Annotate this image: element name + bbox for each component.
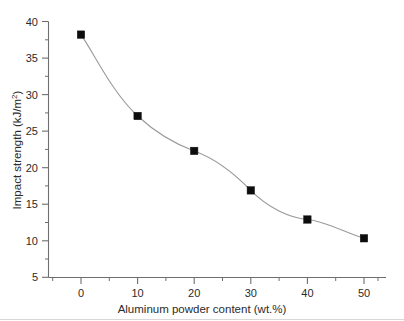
x-tick-label-30: 30 <box>245 287 257 299</box>
chart-figure: 40 35 30 25 20 15 10 5 0 10 20 30 40 50 … <box>0 0 404 321</box>
y-tick-label-10: 10 <box>26 235 38 247</box>
x-tick-label-20: 20 <box>188 287 200 299</box>
y-axis-title-close: ) <box>11 90 23 94</box>
svg-text:Impact strength (kJ/m2): Impact strength (kJ/m2) <box>10 90 23 209</box>
chart-background <box>0 0 404 321</box>
y-tick-label-40: 40 <box>26 16 38 28</box>
y-tick-label-35: 35 <box>26 52 38 64</box>
impact-strength-line-chart: 40 35 30 25 20 15 10 5 0 10 20 30 40 50 … <box>0 0 404 321</box>
y-tick-label-15: 15 <box>26 198 38 210</box>
y-axis-title-base: Impact strength (kJ/m <box>11 99 23 210</box>
x-axis-title: Aluminum powder content (wt.%) <box>118 303 287 315</box>
y-tick-label-25: 25 <box>26 125 38 137</box>
data-point-0 <box>77 31 84 38</box>
x-tick-label-0: 0 <box>78 287 84 299</box>
x-tick-label-50: 50 <box>358 287 370 299</box>
y-axis-title: Impact strength (kJ/m2) <box>10 90 23 209</box>
data-point-30 <box>247 187 254 194</box>
data-point-10 <box>134 112 141 119</box>
y-tick-label-20: 20 <box>26 162 38 174</box>
y-tick-label-5: 5 <box>32 271 38 283</box>
data-point-50 <box>360 235 367 242</box>
x-tick-label-40: 40 <box>301 287 313 299</box>
x-tick-label-10: 10 <box>131 287 143 299</box>
y-tick-label-30: 30 <box>26 89 38 101</box>
data-point-40 <box>304 216 311 223</box>
data-point-20 <box>191 147 198 154</box>
